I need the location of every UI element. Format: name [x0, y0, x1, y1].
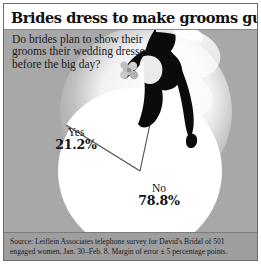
source-note: Source: Leiflein Associates telephone su… — [4, 232, 257, 260]
header-band: Brides dress to make grooms guess — [4, 4, 257, 30]
subhead-line-1: Do brides plan to show their — [12, 33, 182, 45]
headline: Brides dress to make grooms guess — [11, 9, 250, 26]
pie-label-no: No 78.8% — [128, 182, 190, 208]
subhead-line-2: grooms their wedding dresses — [12, 45, 182, 57]
pie-label-no-value: 78.8% — [128, 194, 190, 208]
infographic: Brides dress to make grooms guess Do bri… — [0, 0, 261, 264]
subhead: Do brides plan to show their grooms thei… — [12, 33, 182, 70]
pie-label-yes-value: 21.2% — [47, 138, 105, 152]
source-line-1: Source: Leiflein Associates telephone su… — [10, 237, 251, 246]
source-line-2: engaged women, Jan. 30–Feb. 8. Margin of… — [10, 247, 251, 256]
pie-label-yes: Yes 21.2% — [47, 126, 105, 152]
subhead-line-3: before the big day? — [12, 58, 182, 70]
graphic-frame: Brides dress to make grooms guess Do bri… — [3, 3, 258, 261]
